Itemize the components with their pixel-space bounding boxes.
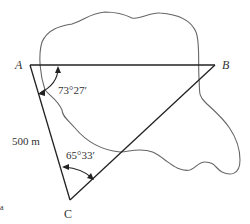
triangulation-diagram: A B C 500 m 73°27′ 65°33′ a: [0, 0, 250, 224]
angle-C-value: 65°33′: [66, 149, 95, 161]
point-label-C: C: [64, 207, 72, 221]
corner-mark: a: [0, 203, 4, 212]
point-label-B: B: [222, 58, 230, 72]
arrowhead-A-top: [55, 66, 61, 73]
side-BC: [70, 65, 215, 200]
arrowhead-C-left: [62, 164, 69, 170]
point-label-A: A: [14, 58, 23, 72]
side-AC-length: 500 m: [12, 135, 40, 147]
angle-A-value: 73°27′: [58, 84, 87, 96]
